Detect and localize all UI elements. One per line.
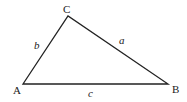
side-label-a: a (119, 34, 125, 46)
triangle-abc (23, 16, 168, 84)
triangle-diagram: C A B b a c (0, 0, 187, 102)
side-label-b: b (34, 39, 40, 51)
side-label-c: c (88, 87, 93, 99)
vertex-label-b: B (172, 83, 179, 95)
vertex-label-c: C (63, 3, 70, 15)
vertex-label-a: A (13, 84, 21, 96)
triangle-svg: C A B b a c (0, 0, 187, 102)
